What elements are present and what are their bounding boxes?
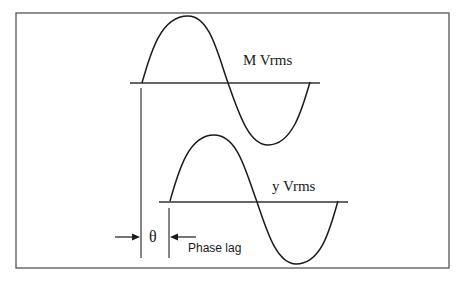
right-pointing-arrow-icon <box>115 234 140 241</box>
diagram-frame <box>16 13 449 268</box>
reference-waveform-group: M Vrms <box>130 16 320 145</box>
left-pointing-arrow-icon <box>170 234 196 241</box>
phase-lag-diagram: M Vrms y Vrms θ Phase lag <box>0 0 461 283</box>
phase-lag-label: Phase lag <box>188 241 241 255</box>
response-wave-label: y Vrms <box>272 178 316 194</box>
reference-sine-wave <box>142 16 310 145</box>
theta-symbol: θ <box>149 228 157 245</box>
reference-wave-label: M Vrms <box>243 52 292 68</box>
